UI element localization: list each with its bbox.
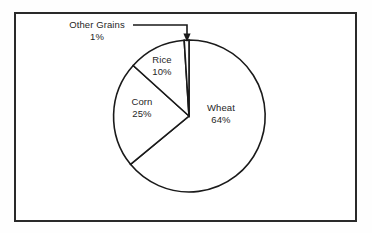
pie-label-corn-value: 25% [124, 108, 160, 120]
pie-label-wheat: Wheat 64% [201, 102, 241, 125]
pie-label-corn-name: Corn [124, 96, 160, 108]
pie-label-wheat-name: Wheat [201, 102, 241, 114]
pie-label-other-grains: Other Grains 1% [59, 19, 135, 42]
chart-screenshot: Other Grains 1% Rice 10% Corn 25% Wheat … [0, 0, 372, 233]
pie-label-other-grains-name: Other Grains [59, 19, 135, 31]
pie-label-rice: Rice 10% [145, 54, 179, 77]
pie-label-wheat-value: 64% [201, 114, 241, 126]
pie-label-other-grains-value: 1% [59, 31, 135, 43]
pie-label-corn: Corn 25% [124, 96, 160, 119]
pie-label-rice-name: Rice [145, 54, 179, 66]
pie-label-rice-value: 10% [145, 66, 179, 78]
other-grains-leader-line [133, 25, 187, 35]
pie-chart-graphic [0, 0, 372, 233]
